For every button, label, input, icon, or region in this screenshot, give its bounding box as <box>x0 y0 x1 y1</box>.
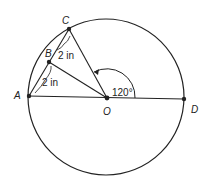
circle-diagram: C B A O D 2 in 2 in 120° <box>0 0 205 180</box>
label-o: O <box>103 106 111 117</box>
point-d <box>182 97 186 101</box>
point-o <box>105 96 110 101</box>
label-a: A <box>13 90 21 101</box>
radius-oc <box>69 29 107 98</box>
arrow-head-icon <box>94 69 99 75</box>
label-bc-length: 2 in <box>58 50 74 61</box>
label-d: D <box>191 104 198 115</box>
point-c <box>67 27 71 31</box>
point-a <box>27 94 31 98</box>
label-angle: 120° <box>112 87 133 98</box>
label-c: C <box>62 15 70 26</box>
point-b <box>47 60 51 64</box>
label-b: B <box>45 48 52 59</box>
label-ab-length: 2 in <box>42 77 58 88</box>
